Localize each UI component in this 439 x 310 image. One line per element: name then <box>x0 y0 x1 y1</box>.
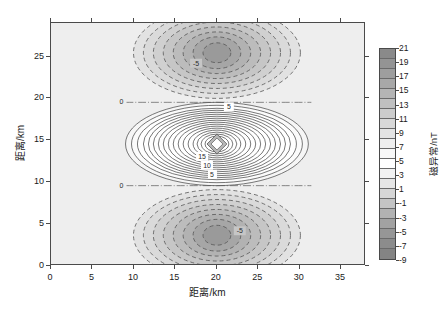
y-tick-mark-right <box>365 139 369 140</box>
y-tick-mark-right <box>365 181 369 182</box>
y-tick-mark <box>46 56 50 57</box>
contour-label-negfive-bottom: -5 <box>237 227 243 234</box>
contour-label-zero-bottom: 0 <box>120 182 124 189</box>
contour-label-fifteen: 15 <box>198 153 206 160</box>
colorbar-tick-label: -9 <box>399 256 407 265</box>
y-tick-mark-right <box>365 265 369 266</box>
positive-peak-center <box>126 102 309 185</box>
colorbar-title: 磁异常/nT <box>429 132 439 176</box>
colorbar-tick-mark <box>396 90 399 91</box>
y-tick-mark <box>46 223 50 224</box>
colorbar-swatch <box>380 139 395 149</box>
colorbar-swatch <box>380 169 395 179</box>
x-tick-label: 15 <box>169 273 179 282</box>
plot-area: 0 0 5 5 10 15 -5 -5 <box>50 22 365 265</box>
x-axis-title: 距离/km <box>50 288 365 298</box>
colorbar-tick-label: 19 <box>399 58 408 67</box>
colorbar-swatch <box>380 189 395 199</box>
colorbar-swatch <box>380 179 395 189</box>
colorbar-swatch <box>380 79 395 89</box>
colorbar-swatch <box>380 249 395 259</box>
x-tick-label: 20 <box>211 273 221 282</box>
colorbar-tick-mark <box>396 48 399 49</box>
colorbar-tick-mark <box>396 161 399 162</box>
x-tick-label: 0 <box>47 273 52 282</box>
x-tick-mark <box>257 265 258 269</box>
y-tick-mark-right <box>365 56 369 57</box>
colorbar-tick-label: 9 <box>399 129 404 138</box>
colorbar-swatch <box>380 49 395 59</box>
colorbar-tick-mark <box>396 232 399 233</box>
y-tick-label: 20 <box>20 93 44 102</box>
x-tick-mark <box>299 265 300 269</box>
y-tick-label: 10 <box>20 177 44 186</box>
colorbar-tick-label: -3 <box>399 213 407 222</box>
colorbar-swatch <box>380 109 395 119</box>
colorbar-swatch <box>380 239 395 249</box>
contour-label-negfive-top: -5 <box>193 60 199 67</box>
y-tick-label: 0 <box>20 261 44 270</box>
colorbar-tick-label: 3 <box>399 171 404 180</box>
colorbar-swatch <box>380 129 395 139</box>
colorbar-tick-mark <box>396 133 399 134</box>
y-tick-mark-right <box>365 97 369 98</box>
x-tick-mark-top <box>133 18 134 22</box>
x-tick-mark <box>50 265 51 269</box>
colorbar-swatch <box>380 69 395 79</box>
colorbar-tick-label: -5 <box>399 227 407 236</box>
contour-label-ten: 10 <box>203 162 211 169</box>
x-tick-mark-top <box>91 18 92 22</box>
colorbar-swatch <box>380 99 395 109</box>
x-tick-mark-top <box>340 18 341 22</box>
colorbar-tick-label: 1 <box>399 185 404 194</box>
colorbar-tick-mark <box>396 175 399 176</box>
x-tick-label: 30 <box>294 273 304 282</box>
colorbar-swatch <box>380 59 395 69</box>
colorbar-swatch <box>380 89 395 99</box>
colorbar-swatch <box>380 159 395 169</box>
colorbar-tick-mark <box>396 119 399 120</box>
colorbar-swatch <box>380 199 395 209</box>
x-tick-mark-top <box>216 18 217 22</box>
contour-label-five-top: 5 <box>227 103 231 110</box>
colorbar-tick-mark <box>396 105 399 106</box>
x-tick-label: 10 <box>128 273 138 282</box>
colorbar-tick-label: -7 <box>399 242 407 251</box>
colorbar-tick-label: 5 <box>399 157 404 166</box>
x-tick-label: 5 <box>89 273 94 282</box>
colorbar-tick-label: 15 <box>399 86 408 95</box>
x-tick-mark <box>174 265 175 269</box>
x-tick-mark <box>340 265 341 269</box>
colorbar-tick-mark <box>396 246 399 247</box>
colorbar-swatch <box>380 119 395 129</box>
x-tick-mark-top <box>257 18 258 22</box>
colorbar-tick-label: 17 <box>399 72 408 81</box>
y-tick-mark-right <box>365 223 369 224</box>
colorbar-tick-label: -1 <box>399 199 407 208</box>
y-tick-mark <box>46 181 50 182</box>
y-tick-label: 5 <box>20 219 44 228</box>
x-tick-mark-top <box>174 18 175 22</box>
x-tick-mark <box>133 265 134 269</box>
colorbar <box>379 48 396 260</box>
colorbar-swatch <box>380 149 395 159</box>
colorbar-tick-mark <box>396 218 399 219</box>
y-tick-mark <box>46 139 50 140</box>
contour-label-five-bottom: 5 <box>210 171 214 178</box>
colorbar-tick-label: 13 <box>399 100 408 109</box>
x-tick-mark-top <box>299 18 300 22</box>
contour-label-zero-top: 0 <box>120 98 124 105</box>
colorbar-tick-mark <box>396 76 399 77</box>
x-tick-mark <box>216 265 217 269</box>
colorbar-swatch <box>380 209 395 219</box>
colorbar-tick-mark <box>396 260 399 261</box>
colorbar-tick-label: 11 <box>399 114 408 123</box>
x-tick-label: 35 <box>335 273 345 282</box>
contour-canvas: 0 0 5 5 10 15 -5 -5 <box>51 23 364 264</box>
x-tick-mark <box>91 265 92 269</box>
x-tick-mark-top <box>50 18 51 22</box>
colorbar-tick-mark <box>396 203 399 204</box>
x-tick-label: 25 <box>252 273 262 282</box>
y-tick-mark <box>46 265 50 266</box>
